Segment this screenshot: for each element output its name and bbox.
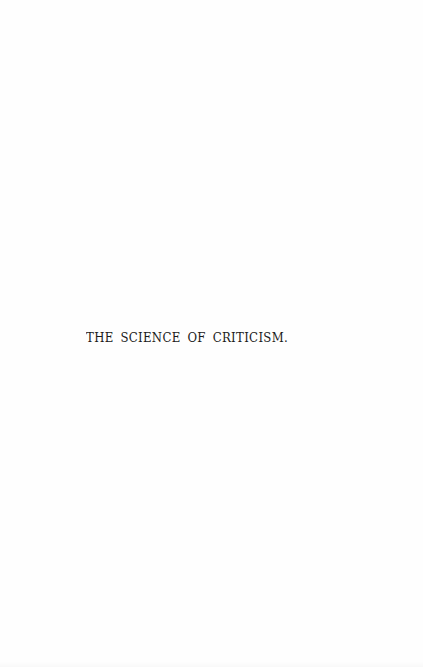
scan-edge-shadow [0,661,423,667]
book-page: THE SCIENCE OF CRITICISM. [0,0,423,667]
half-title: THE SCIENCE OF CRITICISM. [86,329,291,347]
